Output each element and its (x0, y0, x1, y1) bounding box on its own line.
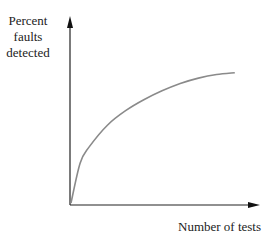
y-axis-label: Percent faults detected (0, 13, 56, 61)
y-axis-label-line: Percent (0, 13, 56, 29)
faults-detected-curve (71, 73, 235, 203)
y-axis-label-line: faults (0, 29, 56, 45)
x-axis-label: Number of tests (178, 219, 261, 235)
y-axis-arrow-icon (67, 16, 73, 28)
x-axis-arrow-icon (248, 202, 260, 208)
y-axis-label-line: detected (0, 45, 56, 61)
